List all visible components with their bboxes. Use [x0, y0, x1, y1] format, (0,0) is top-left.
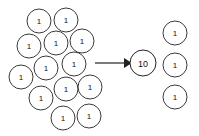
one-circle-right-label: 1: [173, 29, 178, 38]
one-circle-left-label: 1: [64, 16, 69, 25]
one-circle-left-2: 1: [17, 34, 41, 58]
one-circle-right-1: 1: [163, 53, 187, 77]
one-circle-left-label: 1: [61, 114, 66, 123]
one-circle-left-label: 1: [87, 112, 92, 121]
one-circle-left-1: 1: [54, 8, 78, 32]
one-circle-left-label: 1: [88, 83, 93, 92]
one-circle-right-label: 1: [173, 61, 178, 70]
one-circle-right-label: 1: [173, 93, 178, 102]
diagram-canvas: 1111111111111 10 111: [0, 0, 199, 136]
one-circle-left-label: 1: [27, 42, 32, 51]
one-circle-left-0: 1: [27, 9, 51, 33]
one-circle-right-2: 1: [163, 85, 187, 109]
remaining-ones-group: 111: [163, 21, 187, 109]
one-circle-left-label: 1: [44, 64, 49, 73]
one-circle-left-9: 1: [78, 75, 102, 99]
one-circle-left-label: 1: [80, 37, 85, 46]
one-circle-left-4: 1: [70, 29, 94, 53]
one-circle-left-11: 1: [51, 106, 75, 130]
ten-circle-label: 10: [138, 59, 148, 69]
one-circle-left-label: 1: [64, 85, 69, 94]
ten-circle-0: 10: [130, 50, 156, 76]
one-circle-right-0: 1: [163, 21, 187, 45]
one-circle-left-label: 1: [39, 94, 44, 103]
ones-cluster-group: 1111111111111: [9, 8, 102, 130]
one-circle-left-label: 1: [72, 60, 77, 69]
one-circle-left-7: 1: [9, 65, 33, 89]
ten-circle-group: 10: [130, 50, 156, 76]
one-circle-left-8: 1: [54, 77, 78, 101]
regrouping-diagram: 1111111111111 10 111: [0, 0, 199, 136]
one-circle-left-6: 1: [62, 52, 86, 76]
transformation-arrow: [95, 58, 132, 68]
one-circle-left-12: 1: [77, 104, 101, 128]
one-circle-left-label: 1: [19, 73, 24, 82]
one-circle-left-label: 1: [37, 17, 42, 26]
one-circle-left-3: 1: [44, 31, 68, 55]
one-circle-left-10: 1: [29, 86, 53, 110]
one-circle-left-5: 1: [34, 56, 58, 80]
one-circle-left-label: 1: [54, 39, 59, 48]
